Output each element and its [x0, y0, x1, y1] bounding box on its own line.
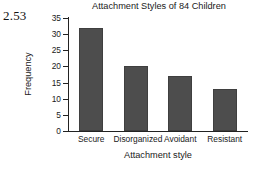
y-axis-tick: 0 [63, 131, 69, 132]
x-axis-line [68, 131, 248, 132]
bar [168, 76, 192, 131]
y-axis-tick-label: 20 [39, 61, 61, 71]
bar [79, 28, 103, 131]
y-axis-tick-label: 30 [39, 29, 61, 39]
y-axis-title: Frequency [23, 52, 33, 95]
x-axis-tick-label: Secure [69, 134, 114, 144]
x-axis-tick-label: Avoidant [158, 134, 203, 144]
plot-area [69, 18, 247, 131]
y-axis-tick-label: 0 [39, 126, 61, 136]
y-axis-tick-label: 5 [39, 110, 61, 120]
x-axis-title: Attachment style [69, 150, 247, 160]
bar [213, 89, 237, 131]
y-axis-tick-label: 10 [39, 94, 61, 104]
x-axis-tick-label: Resistant [203, 134, 248, 144]
bar-chart: Attachment Styles of 84 Children Frequen… [0, 0, 258, 169]
bar [124, 66, 148, 131]
chart-title: Attachment Styles of 84 Children [62, 1, 256, 11]
y-axis-tick-label: 35 [39, 13, 61, 23]
y-axis-tick-label: 25 [39, 45, 61, 55]
x-axis-tick-label: Disorganized [114, 134, 159, 144]
y-axis-tick-label: 15 [39, 78, 61, 88]
